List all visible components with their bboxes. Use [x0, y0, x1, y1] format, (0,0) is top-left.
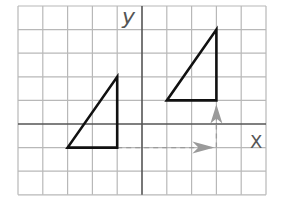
translation-arrows [117, 104, 222, 153]
x-axis-label: X [250, 131, 262, 152]
y-axis-label: y [121, 4, 136, 29]
translation-diagram: y X [0, 0, 284, 207]
